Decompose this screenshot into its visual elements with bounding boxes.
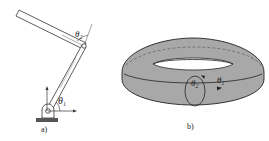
horizontal-arrowhead	[73, 110, 77, 113]
theta2-label-a: θ2	[75, 29, 82, 40]
lower-link	[46, 45, 86, 112]
vertical-arrowhead	[46, 86, 49, 90]
caption-a: a)	[41, 125, 48, 134]
elbow-joint	[82, 44, 86, 48]
two-link-arm: θ1 θ2 a)	[16, 10, 92, 134]
theta1-label-a: θ1	[58, 95, 66, 107]
torus-body	[122, 38, 264, 105]
torus-figure: θ2 θ1 b)	[122, 38, 264, 131]
ground-base	[36, 118, 58, 122]
caption-b: b)	[187, 122, 194, 131]
diagram-canvas: θ1 θ2 a) θ2 θ1 b)	[0, 0, 269, 141]
